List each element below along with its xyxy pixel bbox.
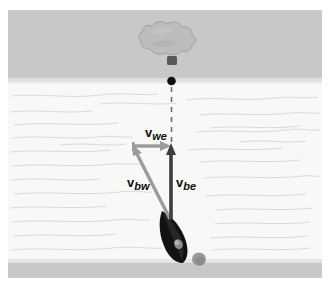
vector-we-tail-cap (132, 142, 135, 151)
vector-label-bw: vbw (127, 176, 150, 192)
balloon-basket (167, 56, 177, 65)
vector-label-we: vwe (145, 126, 167, 142)
vector-label-bw-subscript: bw (134, 180, 149, 192)
near-bank-band (8, 262, 322, 278)
scene-illustration (0, 0, 336, 285)
river-crossing-figure: vwe vbw vbe (0, 0, 336, 285)
far-shoreline-blend (8, 78, 322, 83)
near-shoreline-blend (8, 259, 322, 263)
vector-label-be: vbe (176, 176, 196, 192)
target-marker-dot (167, 77, 176, 86)
vector-label-be-subscript: be (183, 180, 196, 192)
vector-label-we-subscript: we (152, 130, 167, 142)
boat-stern-float-shade (195, 257, 205, 266)
